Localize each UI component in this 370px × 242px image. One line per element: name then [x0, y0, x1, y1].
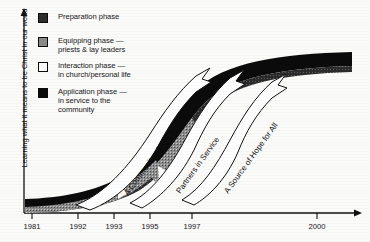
legend-label-interaction-line1: Interaction phase — [58, 61, 125, 70]
x-tick-label-1993: 1993 [106, 222, 123, 231]
legend-label-preparation-line1: Preparation phase [58, 12, 119, 21]
legend-label-application-line1: Application phase — [58, 87, 127, 96]
y-axis-label: Learning what it means to be Christ in o… [20, 28, 29, 168]
legend-swatch-interaction [38, 62, 48, 72]
legend-label-equipping-line2: priests & lay leaders [58, 45, 125, 54]
x-tick-label-1981: 1981 [24, 222, 41, 231]
x-tick-label-2000: 2000 [309, 222, 326, 231]
legend-swatch-preparation [38, 13, 48, 23]
legend-label-interaction-line2: in church/personal life [58, 70, 131, 79]
x-axis-ticks [32, 213, 317, 219]
s-curve-figure: A Community of Love Partners in Service … [0, 0, 370, 242]
legend-label-equipping-line1: Equipping phase — [58, 36, 123, 45]
legend-label-application-line2: in service to the community [58, 96, 110, 115]
legend-swatch-equipping [38, 37, 48, 47]
x-tick-label-1992: 1992 [70, 222, 87, 231]
x-tick-label-1997: 1997 [184, 222, 201, 231]
diagram-root: A Community of Love Partners in Service … [0, 0, 370, 242]
x-tick-label-1995: 1995 [142, 222, 159, 231]
legend-swatch-application [38, 88, 48, 98]
